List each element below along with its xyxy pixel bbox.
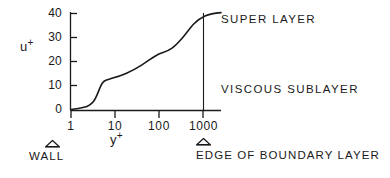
y-tick-label-10: 10 [36,79,62,91]
annotation-super-layer: SUPER LAYER [221,14,316,26]
y-axis-ticks [71,14,78,86]
y-axis-label: u+ [20,38,33,53]
x-axis-ticks [71,111,203,119]
wall-caret-icon [45,141,60,148]
edge-caret-icon [196,139,211,146]
y-axis-label-superscript: + [28,37,34,48]
x-tick-label-1000: 1000 [182,120,225,132]
y-tick-label-20: 20 [36,55,62,67]
y-tick-label-40: 40 [36,7,62,19]
x-axis-label-base: y [110,132,117,147]
x-tick-label-1: 1 [61,120,81,132]
annotation-wall: WALL [29,151,64,163]
x-axis-label-superscript: + [117,130,123,141]
y-tick-label-0: 0 [36,103,62,115]
velocity-profile-curve [71,13,221,110]
annotation-viscous-sublayer: VISCOUS SUBLAYER [221,84,359,96]
chart-figure: 40 30 20 10 0 1 10 100 1000 u+ y+ SUPER … [0,0,390,178]
y-tick-label-30: 30 [36,31,62,43]
annotation-edge-of-boundary-layer: EDGE OF BOUNDARY LAYER [196,150,380,162]
y-axis-label-base: u [20,39,28,54]
x-tick-label-100: 100 [141,120,177,132]
x-axis-label: y+ [110,131,123,146]
